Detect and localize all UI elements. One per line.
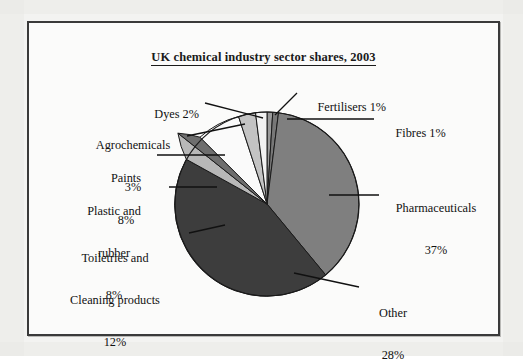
scan-artifact-left [0, 0, 24, 356]
pie-label-plastic-and-rubber-name-line1: Plastic and [53, 204, 175, 218]
pie-chart: Dyes 2% Agrochemicals 3% Paints 8% Plast… [29, 23, 498, 334]
pie-label-pharmaceuticals-name: Pharmaceuticals [377, 201, 495, 215]
scan-artifact-right [503, 0, 523, 356]
pie-label-fibres: Fibres 1% [377, 112, 487, 154]
pie-label-toiletries-and-cleaning-products: Toiletries and Cleaning products 12% [39, 223, 191, 363]
scan-artifact-top [0, 0, 523, 14]
figure-frame: UK chemical industry sector shares, 2003 [27, 21, 500, 336]
pie-label-fibres-text: Fibres 1% [395, 126, 445, 140]
pie-label-pharmaceuticals-value: 37% [377, 243, 495, 257]
pie-label-pharmaceuticals: Pharmaceuticals 37% [377, 173, 495, 285]
pie-label-toiletries-name-line2: Cleaning products [39, 293, 191, 307]
pie-label-other-name: Other [360, 306, 426, 320]
pie-label-toiletries-name-line1: Toiletries and [39, 251, 191, 265]
pie-label-other-value: 28% [360, 348, 426, 362]
pie-label-fertilisers-text: Fertilisers 1% [317, 100, 386, 114]
pie-label-other: Other 28% [360, 278, 426, 363]
leader-line-dyes [205, 103, 263, 118]
leader-line-fertilisers [275, 93, 297, 115]
pie-label-toiletries-value: 12% [39, 335, 191, 349]
